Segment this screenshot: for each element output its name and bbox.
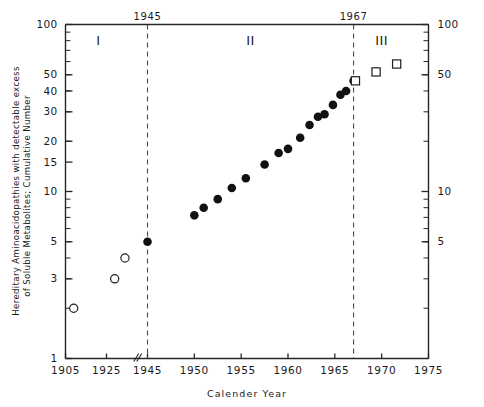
- data-point-filled-circle: [320, 110, 329, 119]
- scatter-plot-svg: 1005040302015105311005010519051925194519…: [0, 0, 484, 407]
- y-tick-label-right: 5: [438, 235, 445, 247]
- data-point-filled-circle: [329, 101, 338, 110]
- data-point-open-circle: [70, 304, 78, 312]
- data-point-filled-circle: [242, 174, 251, 183]
- x-tick-label: 1945: [133, 364, 162, 376]
- y-tick-label-left: 5: [51, 235, 58, 247]
- data-point-filled-circle: [190, 211, 199, 220]
- y-tick-label-left: 50: [44, 68, 58, 80]
- data-point-open-square: [393, 60, 401, 68]
- period-label: I: [96, 33, 100, 48]
- y-tick-label-left: 100: [37, 18, 58, 30]
- y-tick-label-right: 50: [438, 68, 452, 80]
- x-tick-label: 1975: [414, 364, 443, 376]
- data-point-filled-circle: [284, 145, 293, 154]
- y-axis-title-line1: Hereditary Aminoacidopathies with detect…: [11, 66, 21, 316]
- y-tick-label-left: 10: [44, 185, 58, 197]
- data-point-open-square: [372, 68, 380, 76]
- data-point-open-circle: [111, 275, 119, 283]
- x-tick-label: 1955: [227, 364, 256, 376]
- x-tick-label: 1925: [92, 364, 121, 376]
- data-point-filled-circle: [305, 121, 314, 130]
- chart-figure: 1005040302015105311005010519051925194519…: [0, 0, 484, 407]
- x-tick-label: 1970: [367, 364, 396, 376]
- y-tick-label-left: 3: [51, 272, 58, 284]
- data-point-open-square: [351, 77, 359, 85]
- data-point-filled-circle: [274, 149, 283, 158]
- x-tick-label: 1960: [273, 364, 302, 376]
- data-point-filled-circle: [199, 203, 208, 212]
- period-label: II: [246, 33, 255, 48]
- data-point-filled-circle: [143, 237, 152, 246]
- y-tick-label-left: 15: [44, 156, 58, 168]
- x-tick-label: 1905: [51, 364, 80, 376]
- y-tick-label-left: 20: [44, 135, 58, 147]
- x-tick-label: 1950: [180, 364, 209, 376]
- data-point-open-circle: [121, 254, 129, 262]
- y-tick-label-right: 10: [438, 185, 452, 197]
- y-tick-label-left: 1: [51, 352, 58, 364]
- data-point-filled-circle: [296, 133, 305, 142]
- period-divider-label: 1945: [134, 11, 162, 22]
- y-tick-label-left: 30: [44, 105, 58, 117]
- period-divider-label: 1967: [340, 11, 368, 22]
- y-tick-label-left: 40: [44, 85, 58, 97]
- data-point-filled-circle: [260, 160, 269, 169]
- data-point-filled-circle: [228, 184, 237, 193]
- x-tick-label: 1965: [320, 364, 349, 376]
- y-tick-label-right: 100: [438, 18, 459, 30]
- y-axis-title-line2: of Soluble Metabolites; Cumulative Numbe…: [22, 95, 32, 297]
- period-label: III: [375, 33, 388, 48]
- data-point-filled-circle: [342, 87, 351, 96]
- data-point-filled-circle: [213, 195, 222, 204]
- x-axis-title: Calender Year: [207, 388, 287, 399]
